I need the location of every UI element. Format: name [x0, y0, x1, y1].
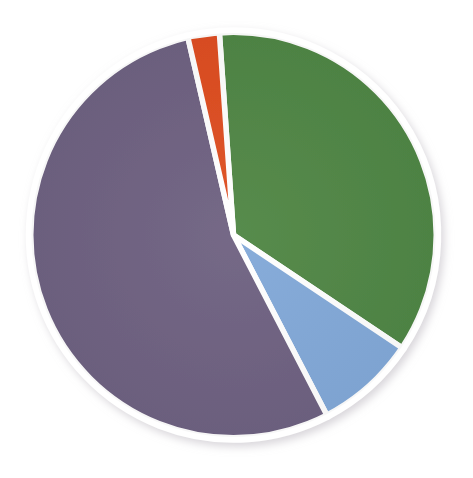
pie-chart-canvas — [0, 0, 473, 478]
pie-chart-figure — [0, 0, 473, 478]
pie-slices-group — [29, 30, 439, 440]
